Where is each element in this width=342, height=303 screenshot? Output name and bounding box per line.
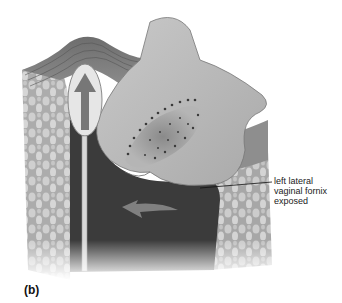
cervix: [97, 18, 267, 186]
callout-line-3: exposed: [274, 196, 342, 206]
anatomical-illustration: [0, 0, 342, 303]
panel-label: (b): [24, 285, 39, 295]
callout-line-1: left lateral: [274, 176, 342, 186]
callout-label: left lateral vaginal fornix exposed: [274, 176, 342, 206]
callout-line-2: vaginal fornix: [274, 186, 342, 196]
